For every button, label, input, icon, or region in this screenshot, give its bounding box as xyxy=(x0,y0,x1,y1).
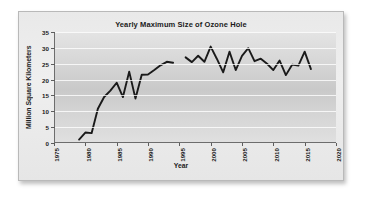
x-tick-2005 xyxy=(242,143,243,146)
x-tick-label-2015: 2015 xyxy=(304,148,311,162)
gridline-5 xyxy=(54,127,336,128)
x-tick-label-1975: 1975 xyxy=(53,148,60,162)
y-tick-25 xyxy=(51,64,55,65)
figure-card: Yearly Maximum Size of Ozone Hole Millio… xyxy=(18,11,344,181)
x-tick-2000 xyxy=(211,143,212,146)
plot-area: 05101520253035 1975198019851990199520002… xyxy=(54,32,336,143)
x-tick-label-2020: 2020 xyxy=(335,148,342,162)
x-tick-label-1980: 1980 xyxy=(84,148,91,162)
y-tick-label-30: 30 xyxy=(42,44,49,51)
x-tick-1975 xyxy=(54,143,55,146)
gridline-35 xyxy=(54,32,336,33)
y-tick-5 xyxy=(51,127,55,128)
y-tick-label-15: 15 xyxy=(42,92,49,99)
gridline-25 xyxy=(54,64,336,65)
chart-title: Yearly Maximum Size of Ozone Hole xyxy=(19,20,343,29)
gridline-30 xyxy=(54,48,336,49)
gridline-10 xyxy=(54,111,336,112)
x-tick-2010 xyxy=(273,143,274,146)
x-tick-label-1985: 1985 xyxy=(116,148,123,162)
x-tick-2020 xyxy=(336,143,337,146)
y-tick-label-0: 0 xyxy=(46,140,49,147)
y-tick-label-35: 35 xyxy=(42,29,49,36)
y-tick-label-5: 5 xyxy=(46,124,49,131)
x-tick-label-1990: 1990 xyxy=(147,148,154,162)
ozone-hole-line xyxy=(79,47,311,140)
chart-page: Yearly Maximum Size of Ozone Hole Millio… xyxy=(0,0,369,199)
y-tick-20 xyxy=(51,80,55,81)
x-tick-label-2000: 2000 xyxy=(210,148,217,162)
y-tick-label-20: 20 xyxy=(42,76,49,83)
gridline-20 xyxy=(54,80,336,81)
y-tick-label-10: 10 xyxy=(42,108,49,115)
y-tick-10 xyxy=(51,111,55,112)
gridline-15 xyxy=(54,95,336,96)
y-tick-30 xyxy=(51,48,55,49)
x-axis-title: Year xyxy=(19,162,343,169)
x-tick-label-1995: 1995 xyxy=(178,148,185,162)
y-tick-label-25: 25 xyxy=(42,60,49,67)
x-tick-2015 xyxy=(305,143,306,146)
y-axis-title: Million Square Kilometers xyxy=(25,32,32,143)
x-tick-1995 xyxy=(179,143,180,146)
x-tick-label-2005: 2005 xyxy=(241,148,248,162)
x-tick-1985 xyxy=(117,143,118,146)
y-tick-35 xyxy=(51,32,55,33)
y-tick-15 xyxy=(51,95,55,96)
x-tick-1990 xyxy=(148,143,149,146)
x-tick-1980 xyxy=(85,143,86,146)
x-tick-label-2010: 2010 xyxy=(272,148,279,162)
x-axis-line xyxy=(54,142,336,143)
